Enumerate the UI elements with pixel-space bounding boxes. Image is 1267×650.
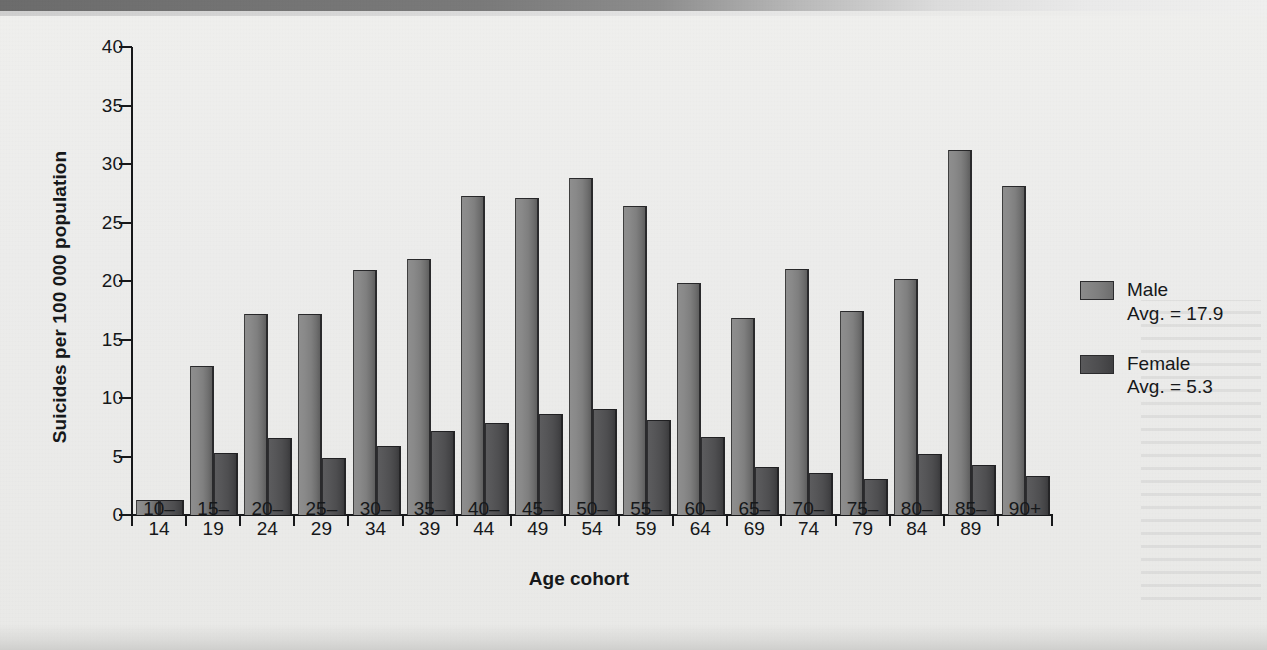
x-category-label-line2: 59 — [619, 519, 673, 539]
legend-series-average: Avg. = 17.9 — [1127, 302, 1223, 326]
x-category-label-line1: 50– — [565, 499, 619, 519]
x-category-label-80-84: 80–84 — [890, 499, 944, 539]
legend-series-name: Male — [1127, 279, 1168, 300]
legend-label-group: MaleAvg. = 17.9 — [1127, 278, 1223, 326]
x-category-label-line2: 39 — [403, 519, 457, 539]
x-category-label-line1: 65– — [727, 499, 781, 519]
x-category-label-line2: 19 — [186, 519, 240, 539]
bar-male-80-84 — [894, 279, 916, 515]
bar-chart-figure: Suicides per 100 000 population 05101520… — [0, 16, 1267, 636]
x-category-label-line1: 85– — [944, 499, 998, 519]
x-category-label-line2: 89 — [944, 519, 998, 539]
x-category-label-15-19: 15–19 — [186, 499, 240, 539]
bar-male-35-39 — [407, 259, 429, 515]
bar-male-15-19 — [190, 366, 212, 515]
x-category-label-line1: 45– — [511, 499, 565, 519]
bar-male-45-49 — [515, 198, 537, 515]
male-swatch — [1080, 281, 1114, 300]
x-category-label-90+: 90+ — [998, 499, 1052, 519]
x-category-label-line2: 44 — [457, 519, 511, 539]
bar-male-85-89 — [948, 150, 970, 515]
x-category-label-line1: 20– — [240, 499, 294, 519]
x-category-label-line1: 55– — [619, 499, 673, 519]
x-category-label-85-89: 85–89 — [944, 499, 998, 539]
x-axis-title: Age cohort — [479, 568, 679, 590]
female-swatch — [1080, 355, 1114, 374]
x-category-label-line1: 25– — [294, 499, 348, 519]
x-category-label-line2: 14 — [132, 519, 186, 539]
bar-male-75-79 — [840, 311, 862, 515]
legend-entry-female: FemaleAvg. = 5.3 — [1080, 352, 1255, 400]
x-category-label-55-59: 55–59 — [619, 499, 673, 539]
bar-male-90+ — [1002, 186, 1024, 515]
bar-male-30-34 — [353, 270, 375, 515]
x-category-label-line2: 24 — [240, 519, 294, 539]
x-category-label-line2: 54 — [565, 519, 619, 539]
chart-legend: MaleAvg. = 17.9FemaleAvg. = 5.3 — [1080, 278, 1255, 425]
y-tick-label: 35 — [102, 95, 123, 117]
x-category-label-45-49: 45–49 — [511, 499, 565, 539]
legend-series-average: Avg. = 5.3 — [1127, 375, 1213, 399]
bar-male-40-44 — [461, 196, 483, 515]
y-tick-label: 10 — [102, 387, 123, 409]
y-tick-label: 40 — [102, 36, 123, 58]
x-category-label-line2: 64 — [673, 519, 727, 539]
legend-entry-male: MaleAvg. = 17.9 — [1080, 278, 1255, 326]
bar-male-60-64 — [677, 283, 699, 515]
x-category-label-line2: 74 — [781, 519, 835, 539]
scanned-page: Suicides per 100 000 population 05101520… — [0, 0, 1267, 650]
y-tick-label: 25 — [102, 212, 123, 234]
x-category-label-40-44: 40–44 — [457, 499, 511, 539]
y-tick-label: 15 — [102, 329, 123, 351]
x-category-label-35-39: 35–39 — [403, 499, 457, 539]
x-category-label-line2: 84 — [890, 519, 944, 539]
bar-male-70-74 — [785, 269, 807, 515]
x-category-label-60-64: 60–64 — [673, 499, 727, 539]
x-category-label-line1: 90+ — [998, 499, 1052, 519]
x-category-label-65-69: 65–69 — [727, 499, 781, 539]
legend-series-name: Female — [1127, 353, 1190, 374]
x-category-label-20-24: 20–24 — [240, 499, 294, 539]
x-category-label-line1: 10– — [132, 499, 186, 519]
x-category-label-line2: 29 — [294, 519, 348, 539]
x-category-label-line1: 30– — [348, 499, 402, 519]
legend-label-group: FemaleAvg. = 5.3 — [1127, 352, 1213, 400]
y-tick-label: 5 — [112, 446, 123, 468]
bar-male-55-59 — [623, 206, 645, 515]
y-axis-title: Suicides per 100 000 population — [49, 87, 71, 507]
x-category-label-line1: 35– — [403, 499, 457, 519]
y-tick-label: 20 — [102, 270, 123, 292]
x-category-label-75-79: 75–79 — [836, 499, 890, 539]
x-category-label-50-54: 50–54 — [565, 499, 619, 539]
x-category-label-25-29: 25–29 — [294, 499, 348, 539]
x-category-label-30-34: 30–34 — [348, 499, 402, 539]
bar-male-25-29 — [298, 314, 320, 515]
x-category-label-70-74: 70–74 — [781, 499, 835, 539]
plot-area: 0510152025303540 — [132, 47, 1052, 515]
bar-male-65-69 — [731, 318, 753, 515]
y-tick-label: 0 — [112, 504, 123, 526]
x-category-label-10-14: 10–14 — [132, 499, 186, 539]
x-category-label-line2: 34 — [348, 519, 402, 539]
bar-male-50-54 — [569, 178, 591, 515]
scan-edge-band-top — [0, 0, 1267, 11]
x-category-label-line1: 70– — [781, 499, 835, 519]
y-tick-label: 30 — [102, 153, 123, 175]
x-category-label-line1: 60– — [673, 499, 727, 519]
x-category-label-line1: 75– — [836, 499, 890, 519]
x-category-label-line1: 80– — [890, 499, 944, 519]
bar-male-20-24 — [244, 314, 266, 515]
x-category-label-line2: 49 — [511, 519, 565, 539]
x-category-label-line2: 79 — [836, 519, 890, 539]
x-category-label-line2: 69 — [727, 519, 781, 539]
x-category-label-line1: 15– — [186, 499, 240, 519]
x-category-label-line1: 40– — [457, 499, 511, 519]
